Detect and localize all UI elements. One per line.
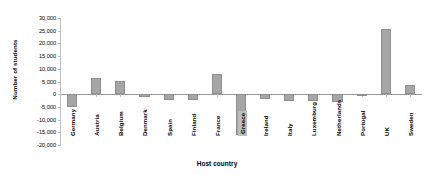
y-axis-tick-label: 10,000 [22,66,56,72]
x-axis-category-label: Portugal [359,111,366,137]
x-axis-category-label: UK [383,127,390,136]
x-axis-category-label: France [214,116,221,137]
x-axis-category-label: Luxemburg [310,102,317,136]
y-axis-tick-label: 20,000 [22,40,56,46]
x-axis-category-label: Ireland [262,116,269,137]
x-axis-category-label: Greece [238,111,247,136]
y-axis-tick-label: 30,000 [22,15,56,21]
y-axis-tick-label: 15,000 [22,53,56,59]
x-axis-category-label: Netherlands [335,100,342,136]
x-axis-category-label: Italy [286,123,293,136]
y-axis-tick-label: -20,000 [22,142,56,148]
y-axis-tick-label: -10,000 [22,117,56,123]
x-axis-category-label: Sweden [407,113,414,137]
x-axis-category-label: Denmark [141,109,148,136]
y-axis-tick-labels: 30,00025,00020,00015,00010,0005,0000-5,0… [22,0,56,182]
y-axis-tick-label: 5,000 [22,79,56,85]
y-axis-title: Number of students [11,10,18,130]
bar-chart: Number of students 30,00025,00020,00015,… [0,0,434,182]
x-axis-category-label: Finland [190,114,197,136]
x-axis-title: Host country [0,160,434,167]
x-axis-category-label: Germany [69,109,76,136]
y-axis-tick-label: -5,000 [22,104,56,110]
y-axis-tick-label: 0 [22,91,56,97]
y-axis-tick-label: 25,000 [22,28,56,34]
y-axis-tick-label: -15,000 [22,129,56,135]
x-axis-category-label: Belgium [117,111,124,136]
x-axis-category-label: Austria [93,114,100,136]
x-axis-category-labels: GermanyAustriaBelgiumDenmarkSpainFinland… [60,18,422,168]
x-axis-category-label: Spain [166,119,173,136]
